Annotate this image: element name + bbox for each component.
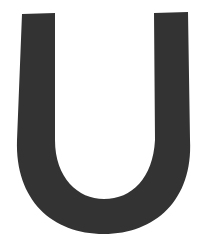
letter-canvas: U xyxy=(0,0,203,249)
letter-u-shape xyxy=(0,0,203,249)
